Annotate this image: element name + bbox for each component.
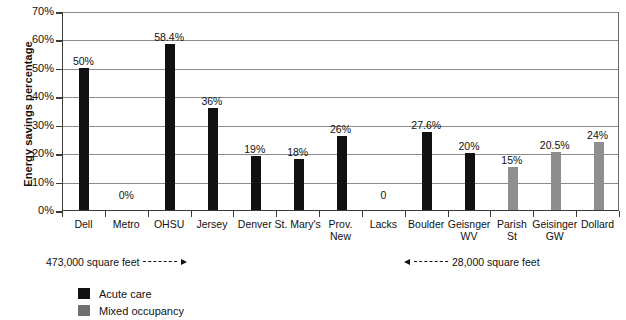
bar-value-label: 58.4% [142, 31, 196, 43]
bar-ohsu[interactable] [165, 44, 175, 210]
bar-st-mary-s[interactable] [294, 159, 304, 210]
bar-value-label: 50% [56, 55, 110, 67]
bar-denver[interactable] [251, 156, 261, 210]
y-tick-mark [56, 12, 62, 14]
annotation-right: 28,000 square feet [404, 256, 540, 268]
bar-parish-st[interactable] [508, 167, 518, 210]
chart-root: Energy savings percentage 0%10%20%30%40%… [0, 0, 626, 320]
dashed-line-left [143, 261, 177, 263]
x-axis-label: Dollard [567, 219, 626, 231]
bar-value-label: 18% [271, 146, 325, 158]
bar-value-label: 0 [356, 189, 410, 201]
arrow-left-icon [404, 259, 410, 265]
bar-dollard[interactable] [594, 142, 604, 210]
y-tick-label: 50% [8, 62, 54, 74]
x-tick-mark [319, 211, 320, 217]
y-tick-label: 30% [8, 119, 54, 131]
bar-dell[interactable] [79, 68, 89, 210]
bar-value-label: 0% [99, 189, 153, 201]
x-tick-mark [490, 211, 491, 217]
x-tick-mark [533, 211, 534, 217]
legend: Acute care Mixed occupancy [78, 285, 184, 319]
bar-jersey[interactable] [208, 108, 218, 210]
y-tick-mark [56, 183, 62, 185]
x-tick-mark [105, 211, 106, 217]
dashed-line-right [414, 261, 448, 263]
x-tick-mark [62, 211, 63, 217]
y-tick-label: 10% [8, 176, 54, 188]
legend-label-acute: Acute care [99, 288, 152, 300]
x-tick-mark [233, 211, 234, 217]
x-tick-mark [276, 211, 277, 217]
bar-value-label: 24% [571, 129, 625, 141]
bar-prov-new[interactable] [337, 136, 347, 210]
y-tick-mark [56, 154, 62, 156]
y-tick-mark [56, 97, 62, 99]
annotation-left: 473,000 square feet [46, 256, 187, 268]
y-tick-mark [56, 40, 62, 42]
y-tick-label: 20% [8, 147, 54, 159]
bar-geisnger-wv[interactable] [465, 153, 475, 210]
arrow-right-icon [181, 259, 187, 265]
x-tick-mark [576, 211, 577, 217]
legend-item-acute: Acute care [78, 285, 184, 302]
y-tick-label: 70% [8, 5, 54, 17]
x-tick-mark [362, 211, 363, 217]
legend-swatch-acute-icon [78, 288, 90, 299]
annotation-right-text: 28,000 square feet [452, 256, 540, 268]
y-tick-mark [56, 69, 62, 71]
bar-geisinger-gw[interactable] [551, 152, 561, 210]
bar-value-label: 20% [442, 140, 496, 152]
annotation-left-text: 473,000 square feet [46, 256, 139, 268]
y-tick-label: 40% [8, 90, 54, 102]
gridline [63, 69, 618, 70]
x-tick-mark [619, 211, 620, 217]
legend-label-mixed: Mixed occupancy [99, 305, 184, 317]
bar-boulder[interactable] [422, 132, 432, 210]
bar-value-label: 15% [485, 154, 539, 166]
bar-value-label: 26% [314, 123, 368, 135]
y-tick-mark [56, 126, 62, 128]
bar-value-label: 27.6% [399, 119, 453, 131]
y-tick-label: 60% [8, 33, 54, 45]
x-tick-mark [405, 211, 406, 217]
x-tick-mark [191, 211, 192, 217]
legend-swatch-mixed-icon [78, 305, 90, 316]
gridline [63, 97, 618, 98]
gridline [63, 12, 618, 13]
bar-value-label: 36% [185, 95, 239, 107]
x-tick-mark [148, 211, 149, 217]
y-tick-label: 0% [8, 204, 54, 216]
legend-item-mixed: Mixed occupancy [78, 302, 184, 319]
x-tick-mark [448, 211, 449, 217]
